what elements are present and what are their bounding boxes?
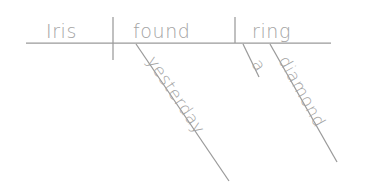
sentence-diagram: Iris found ring a diamond yesterday xyxy=(0,0,376,187)
word-adverb: yesterday xyxy=(143,52,210,138)
word-subject: Iris xyxy=(46,20,77,42)
word-verb: found xyxy=(133,20,190,42)
word-direct-object: ring xyxy=(252,20,291,42)
sentence-diagram-canvas: Iris found ring a diamond yesterday xyxy=(0,0,376,187)
word-article: a xyxy=(248,55,271,75)
word-adjective: diamond xyxy=(275,52,331,131)
